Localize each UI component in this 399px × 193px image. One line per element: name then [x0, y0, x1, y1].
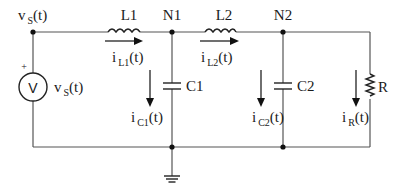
resistor-r: R iR(t): [342, 70, 388, 128]
inductor-l1-label: L1: [121, 7, 138, 23]
current-ir-arrowhead-icon: [352, 98, 360, 107]
source-label: vS(t): [54, 79, 83, 98]
node-n2-label: N2: [274, 7, 292, 23]
voltage-source: V + vS(t): [19, 61, 83, 101]
inductor-l2: L2 iL2(t): [200, 7, 239, 68]
current-il1-label: iL1(t): [112, 49, 143, 68]
node-n2-dot: [280, 29, 285, 34]
capacitor-c2-label: C2: [297, 78, 315, 94]
current-ic1-arrowhead-icon: [146, 98, 154, 107]
capacitor-c1: C1 iC1(t): [131, 70, 204, 128]
current-ic1-label: iC1(t): [131, 109, 163, 128]
current-ic2-arrowhead-icon: [257, 98, 265, 107]
inductor-l2-icon: [205, 29, 236, 32]
ground: [164, 176, 180, 182]
current-il2-label: iL2(t): [201, 49, 232, 68]
inductor-l1: L1 iL1(t): [105, 7, 143, 68]
node-bottom-n1-dot: [169, 144, 174, 149]
resistor-r-label: R: [378, 79, 388, 95]
source-polarity-plus: +: [21, 61, 27, 72]
resistor-r-icon: [366, 74, 374, 96]
node-vs-label: vS(t): [18, 7, 47, 26]
source-symbol: V: [28, 80, 38, 96]
capacitor-c1-label: C1: [186, 78, 204, 94]
current-il1-arrowhead-icon: [134, 37, 143, 45]
node-vs-dot: [30, 29, 35, 34]
node-bottom-n2-dot: [280, 144, 285, 149]
node-n1-label: N1: [163, 7, 181, 23]
node-n1-dot: [169, 29, 174, 34]
inductor-l1-icon: [108, 29, 140, 32]
current-il2-arrowhead-icon: [230, 37, 239, 45]
current-ir-label: iR(t): [342, 109, 369, 128]
circuit-diagram: V + vS(t) vS(t) L1 iL1(t) N1 L2 iL2(t) N…: [0, 0, 399, 193]
current-ic2-label: iC2(t): [252, 109, 284, 128]
inductor-l2-label: L2: [216, 7, 233, 23]
